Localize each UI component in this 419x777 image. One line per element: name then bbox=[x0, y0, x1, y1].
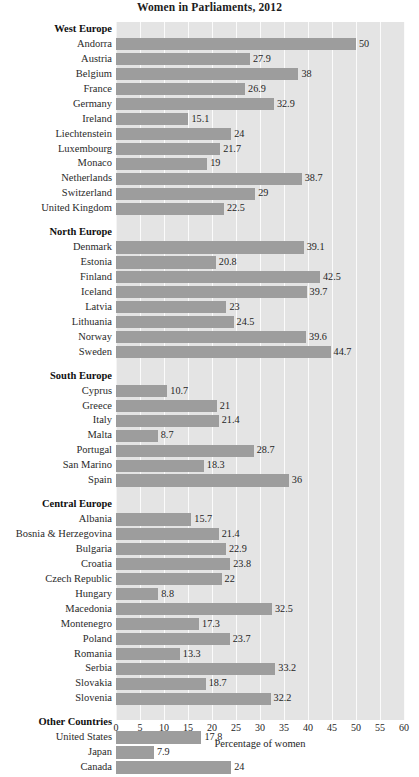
chart-row: France26.9 bbox=[0, 82, 419, 97]
bar[interactable] bbox=[116, 460, 204, 472]
bar-value-label: 29 bbox=[255, 186, 268, 201]
bar-value-label: 26.9 bbox=[245, 82, 266, 97]
x-tick-label-25: 25 bbox=[231, 722, 241, 733]
bar-value-label: 24 bbox=[231, 127, 244, 142]
bar[interactable] bbox=[116, 68, 298, 80]
bar-value-label: 42.5 bbox=[320, 270, 341, 285]
category-label: Montenegro bbox=[61, 617, 112, 632]
bar[interactable] bbox=[116, 415, 219, 427]
bar[interactable] bbox=[116, 173, 302, 185]
category-label: Poland bbox=[83, 632, 112, 647]
bar-value-label: 24.5 bbox=[234, 315, 255, 330]
chart-rows: West EuropeAndorra50Austria27.9Belgium38… bbox=[0, 22, 419, 775]
bar-container: 21.4 bbox=[116, 527, 404, 542]
group-spacer bbox=[0, 706, 419, 715]
x-tick-label-45: 45 bbox=[327, 722, 337, 733]
bar[interactable] bbox=[116, 128, 231, 140]
category-label: Bosnia & Herzegovina bbox=[16, 527, 112, 542]
bar-container: 39.1 bbox=[116, 240, 404, 255]
category-label: Belgium bbox=[76, 67, 112, 82]
bar[interactable] bbox=[116, 346, 331, 358]
bar[interactable] bbox=[116, 385, 167, 397]
bar-value-label: 22 bbox=[222, 572, 235, 587]
group-header-row: West Europe bbox=[0, 22, 419, 37]
bar-container: 17.3 bbox=[116, 617, 404, 632]
bar-value-label: 24 bbox=[231, 760, 244, 775]
bar[interactable] bbox=[116, 286, 307, 298]
bar[interactable] bbox=[116, 678, 206, 690]
bar[interactable] bbox=[116, 331, 306, 343]
bar[interactable] bbox=[116, 558, 230, 570]
bar[interactable] bbox=[116, 83, 245, 95]
chart-row: Latvia23 bbox=[0, 300, 419, 315]
bar[interactable] bbox=[116, 301, 226, 313]
bar[interactable] bbox=[116, 98, 274, 110]
bar[interactable] bbox=[116, 188, 255, 200]
bar-value-label: 13.3 bbox=[180, 647, 201, 662]
chart-row: Czech Republic22 bbox=[0, 572, 419, 587]
bar-container: 32.2 bbox=[116, 691, 404, 706]
category-label: Greece bbox=[82, 399, 112, 414]
bar-value-label: 39.6 bbox=[306, 330, 327, 345]
category-label: Estonia bbox=[81, 255, 113, 270]
x-tick-label-35: 35 bbox=[279, 722, 289, 733]
bar[interactable] bbox=[116, 271, 320, 283]
bar[interactable] bbox=[116, 474, 289, 486]
category-label: Denmark bbox=[73, 240, 112, 255]
bar[interactable] bbox=[116, 241, 304, 253]
x-tick-label-20: 20 bbox=[207, 722, 217, 733]
bar-container: 23.7 bbox=[116, 632, 404, 647]
bar[interactable] bbox=[116, 588, 158, 600]
bar[interactable] bbox=[116, 603, 272, 615]
chart-row: Andorra50 bbox=[0, 37, 419, 52]
x-axis: 051015202530354045505560 bbox=[116, 720, 404, 738]
chart-title: Women in Parliaments, 2012 bbox=[0, 1, 419, 13]
bar-container: 27.9 bbox=[116, 52, 404, 67]
bar[interactable] bbox=[116, 158, 207, 170]
category-label: United States bbox=[56, 730, 112, 745]
x-tick-label-10: 10 bbox=[159, 722, 169, 733]
chart-row: Canada24 bbox=[0, 760, 419, 775]
bar-container: 15.1 bbox=[116, 112, 404, 127]
bar[interactable] bbox=[116, 256, 216, 268]
bar[interactable] bbox=[116, 543, 226, 555]
bar[interactable] bbox=[116, 445, 254, 457]
chart-row: Hungary8.8 bbox=[0, 587, 419, 602]
chart-row: Macedonia32.5 bbox=[0, 602, 419, 617]
bar-value-label: 23.7 bbox=[230, 632, 251, 647]
bar[interactable] bbox=[116, 143, 220, 155]
category-label: Lithuania bbox=[72, 315, 112, 330]
bar[interactable] bbox=[116, 618, 199, 630]
bar[interactable] bbox=[116, 513, 191, 525]
bar-container: 22 bbox=[116, 572, 404, 587]
bar-value-label: 8.8 bbox=[158, 587, 174, 602]
bar[interactable] bbox=[116, 38, 356, 50]
group-header-row: South Europe bbox=[0, 369, 419, 384]
bar[interactable] bbox=[116, 693, 271, 705]
bar[interactable] bbox=[116, 633, 230, 645]
bar[interactable] bbox=[116, 663, 275, 675]
bar[interactable] bbox=[116, 113, 188, 125]
bar[interactable] bbox=[116, 528, 219, 540]
bar[interactable] bbox=[116, 203, 224, 215]
bar-container: 18.7 bbox=[116, 676, 404, 691]
bar[interactable] bbox=[116, 430, 158, 442]
category-label: Cyprus bbox=[82, 384, 112, 399]
bar[interactable] bbox=[116, 316, 234, 328]
bar-value-label: 22.9 bbox=[226, 542, 247, 557]
bar-value-label: 50 bbox=[356, 37, 369, 52]
bar-container: 42.5 bbox=[116, 270, 404, 285]
bar[interactable] bbox=[116, 53, 250, 65]
bar[interactable] bbox=[116, 761, 231, 773]
chart-row: Belgium38 bbox=[0, 67, 419, 82]
bar-value-label: 44.7 bbox=[331, 345, 352, 360]
bar[interactable] bbox=[116, 400, 217, 412]
group-spacer bbox=[0, 488, 419, 497]
bar-container: 29 bbox=[116, 186, 404, 201]
bar[interactable] bbox=[116, 648, 180, 660]
bar-container: 24 bbox=[116, 127, 404, 142]
bar-value-label: 18.7 bbox=[206, 676, 227, 691]
chart-row: Luxembourg21.7 bbox=[0, 142, 419, 157]
bar-value-label: 39.7 bbox=[307, 285, 328, 300]
bar[interactable] bbox=[116, 573, 222, 585]
